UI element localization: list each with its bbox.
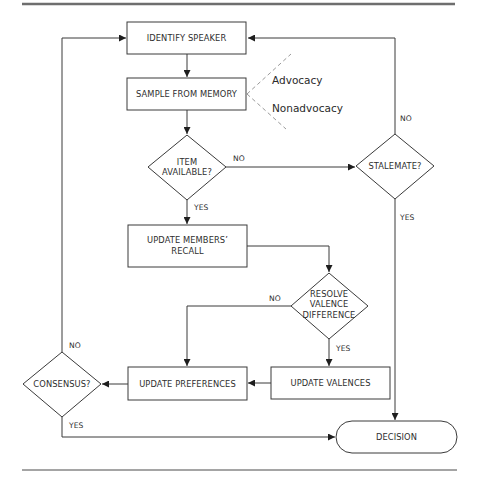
- node-stalemate-label: STALEMATE?: [368, 161, 421, 171]
- node-resolve-valence-line1: RESOLVE: [310, 289, 348, 299]
- label-resolve-yes: YES: [335, 344, 350, 353]
- label-resolve-no: NO: [269, 294, 281, 303]
- node-sample-from-memory-label: SAMPLE FROM MEMORY: [136, 89, 238, 99]
- node-item-available-line1: ITEM: [177, 157, 197, 167]
- node-update-preferences: UPDATE PREFERENCES: [128, 367, 247, 400]
- label-consensus-no: NO: [69, 341, 81, 350]
- edge-recall-to-resolve: [247, 246, 329, 272]
- node-update-recall-line1: UPDATE MEMBERS’: [147, 235, 228, 245]
- node-update-members-recall: UPDATE MEMBERS’ RECALL: [128, 225, 247, 267]
- node-sample-from-memory: SAMPLE FROM MEMORY: [127, 78, 246, 110]
- node-identify-speaker-label: IDENTIFY SPEAKER: [147, 33, 227, 43]
- node-update-valences: UPDATE VALENCES: [271, 367, 390, 399]
- node-resolve-valence-line2: VALENCE: [310, 299, 349, 309]
- annotation-nonadvocacy: Nonadvocacy: [272, 102, 343, 114]
- node-update-recall-line2: RECALL: [171, 246, 204, 256]
- node-consensus-label: CONSENSUS?: [33, 379, 90, 389]
- label-stalemate-no: NO: [400, 114, 412, 123]
- edge-resolve-no-to-preferences: [187, 306, 291, 366]
- node-resolve-valence-difference: RESOLVE VALENCE DIFFERENCE: [291, 273, 368, 339]
- node-consensus: CONSENSUS?: [23, 352, 101, 417]
- label-consensus-yes: YES: [68, 421, 83, 430]
- node-item-available: ITEM AVAILABLE?: [148, 135, 226, 200]
- node-identify-speaker: IDENTIFY SPEAKER: [127, 22, 246, 54]
- edge-consensus-yes-to-decision: [62, 417, 335, 437]
- flowchart-canvas: IDENTIFY SPEAKER SAMPLE FROM MEMORY ITEM…: [0, 0, 480, 486]
- node-resolve-valence-line3: DIFFERENCE: [303, 310, 356, 320]
- node-stalemate: STALEMATE?: [356, 134, 434, 199]
- node-item-available-line2: AVAILABLE?: [162, 167, 212, 177]
- node-decision: DECISION: [336, 421, 457, 453]
- edge-stalemate-no-to-identify: [248, 38, 395, 134]
- node-update-valences-label: UPDATE VALENCES: [291, 378, 371, 388]
- node-decision-label: DECISION: [376, 432, 417, 442]
- label-item-no: NO: [233, 154, 245, 163]
- label-item-yes: YES: [193, 203, 208, 212]
- node-update-preferences-label: UPDATE PREFERENCES: [139, 379, 236, 389]
- annotation-advocacy: Advocacy: [272, 74, 323, 86]
- label-stalemate-yes: YES: [399, 213, 414, 222]
- edge-consensus-no-to-identify: [62, 38, 126, 352]
